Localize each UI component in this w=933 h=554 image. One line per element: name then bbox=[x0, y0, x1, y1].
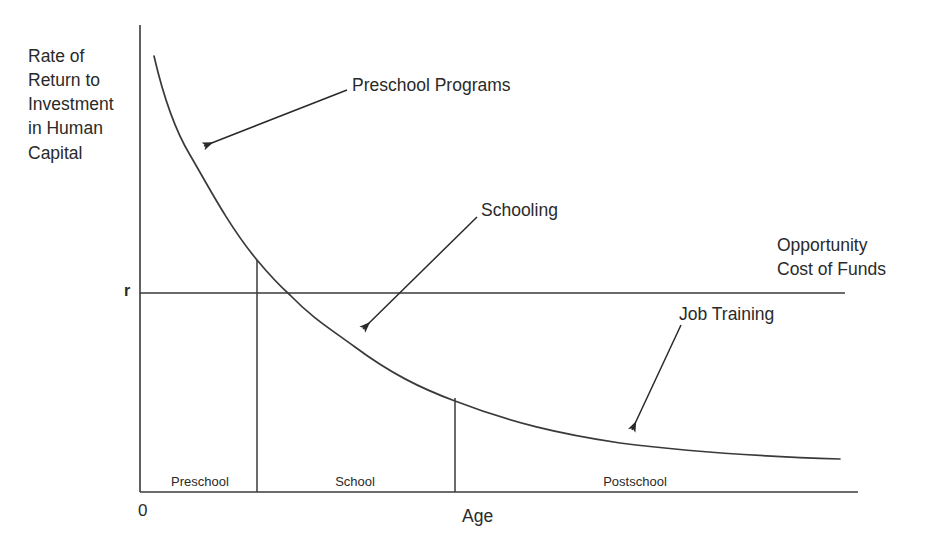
stage-label-preschool: Preschool bbox=[148, 474, 252, 489]
stage-label-postschool: Postschool bbox=[470, 474, 800, 489]
stage-label-school: School bbox=[262, 474, 448, 489]
leader-job-training bbox=[632, 325, 681, 430]
annotation-schooling: Schooling bbox=[481, 199, 558, 222]
annotation-preschool-programs: Preschool Programs bbox=[352, 74, 511, 97]
figure-container: Rate of Return to Investment in Human Ca… bbox=[0, 0, 933, 554]
y-axis-label: Rate of Return to Investment in Human Ca… bbox=[28, 44, 138, 165]
x-axis-label: Age bbox=[462, 505, 493, 528]
leader-preschool-programs bbox=[204, 90, 347, 146]
opportunity-cost-of-funds-label: Opportunity Cost of Funds bbox=[777, 233, 886, 281]
r-axis-tick-label: r bbox=[124, 281, 130, 302]
annotation-job-training: Job Training bbox=[679, 303, 774, 326]
leader-schooling bbox=[363, 217, 477, 329]
origin-label: 0 bbox=[138, 500, 147, 522]
